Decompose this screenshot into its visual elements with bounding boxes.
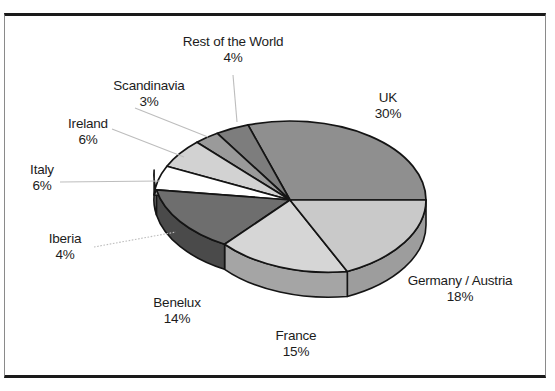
pie-label-scandinavia: Scandinavia 3% — [99, 78, 199, 109]
pie-label-italy-name: Italy — [16, 162, 68, 178]
pie-label-germany-austria: Germany / Austria 18% — [391, 273, 529, 304]
leader-line-italy — [60, 181, 160, 182]
pie-label-benelux: Benelux 14% — [141, 295, 213, 326]
pie-label-rest-of-the-world: Rest of the World 4% — [166, 34, 300, 65]
pie-label-iberia-percent: 4% — [35, 247, 95, 263]
pie-label-scandinavia-percent: 3% — [99, 94, 199, 110]
pie-label-france-name: France — [263, 328, 329, 344]
pie-label-italy-percent: 6% — [16, 178, 68, 194]
pie-label-ireland-name: Ireland — [53, 116, 123, 132]
pie-label-ireland-percent: 6% — [53, 132, 123, 148]
pie-label-uk-name: UK — [358, 90, 418, 106]
pie-label-germany-austria-name: Germany / Austria — [391, 273, 529, 289]
pie-label-rest-of-the-world-name: Rest of the World — [166, 34, 300, 50]
pie-label-uk-percent: 30% — [358, 106, 418, 122]
leader-line-scandinavia — [135, 108, 208, 137]
pie-label-rest-of-the-world-percent: 4% — [166, 50, 300, 66]
pie-label-france-percent: 15% — [263, 344, 329, 360]
leader-line-iberia — [94, 232, 176, 247]
pie-label-italy: Italy 6% — [16, 162, 68, 193]
pie-label-benelux-name: Benelux — [141, 295, 213, 311]
pie-label-iberia: Iberia 4% — [35, 231, 95, 262]
leader-line-rest-of-the-world — [233, 75, 237, 122]
pie-label-iberia-name: Iberia — [35, 231, 95, 247]
pie-label-germany-austria-percent: 18% — [391, 289, 529, 305]
pie-label-france: France 15% — [263, 328, 329, 359]
pie-label-uk: UK 30% — [358, 90, 418, 121]
pie-label-ireland: Ireland 6% — [53, 116, 123, 147]
pie-label-benelux-percent: 14% — [141, 311, 213, 327]
pie-label-scandinavia-name: Scandinavia — [99, 78, 199, 94]
